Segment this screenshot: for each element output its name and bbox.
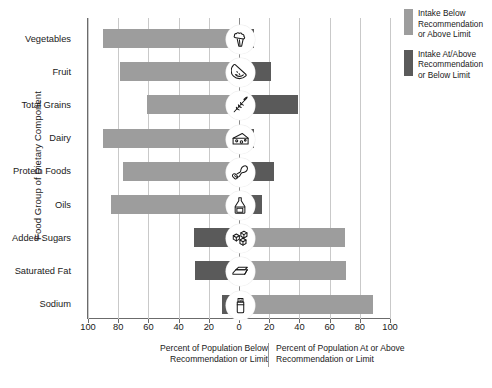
category-label: Sodium bbox=[0, 288, 74, 321]
bar-row bbox=[88, 221, 390, 254]
bar-rows bbox=[88, 22, 390, 321]
legend-item: Intake Below Recommendation or Above Lim… bbox=[404, 8, 492, 40]
bar-row bbox=[88, 254, 390, 287]
legend-swatch bbox=[404, 9, 413, 35]
category-label: Added Sugars bbox=[0, 221, 74, 254]
legend-item: Intake At/Above Recommendation or Below … bbox=[404, 49, 492, 81]
bar-segment-below-recommendation bbox=[111, 195, 239, 214]
x-axis-tick-label: 100 bbox=[382, 322, 398, 332]
legend: Intake Below Recommendation or Above Lim… bbox=[404, 8, 492, 89]
oil-bottle-icon bbox=[226, 191, 255, 220]
x-axis-tick-label: 20 bbox=[204, 322, 214, 332]
category-label: Fruit bbox=[0, 55, 74, 88]
legend-label: Intake Below Recommendation or Above Lim… bbox=[418, 8, 492, 40]
bar-row bbox=[88, 88, 390, 121]
dietary-intake-chart: Food Group of Dietary Component Vegetabl… bbox=[0, 0, 492, 388]
bar-row bbox=[88, 188, 390, 221]
x-axis-tick-label: 60 bbox=[324, 322, 334, 332]
bar-segment-below-recommendation bbox=[239, 261, 346, 280]
category-label: Dairy bbox=[0, 122, 74, 155]
legend-label: Intake At/Above Recommendation or Below … bbox=[418, 49, 492, 81]
legend-swatch bbox=[404, 50, 413, 76]
x-axis-tick-labels: 10080604020020406080100 bbox=[88, 322, 390, 336]
x-axis-tick-label: 60 bbox=[143, 322, 153, 332]
bar-segment-below-recommendation bbox=[123, 162, 239, 181]
bar-row bbox=[88, 122, 390, 155]
bar-row bbox=[88, 22, 390, 55]
plot-area bbox=[88, 18, 390, 319]
broccoli-icon bbox=[226, 25, 255, 54]
x-axis-tick-label: 40 bbox=[173, 322, 183, 332]
wheat-stalk-icon bbox=[226, 91, 255, 120]
x-axis-tick-label: 40 bbox=[294, 322, 304, 332]
cheese-icon bbox=[226, 125, 255, 154]
category-label: Oils bbox=[0, 188, 74, 221]
sugar-cubes-icon bbox=[226, 224, 255, 253]
category-label: Vegetables bbox=[0, 22, 74, 55]
bar-row bbox=[88, 55, 390, 88]
butter-icon bbox=[226, 257, 255, 286]
watermelon-slice-icon bbox=[226, 58, 255, 87]
category-label: Protein Foods bbox=[0, 155, 74, 188]
x-axis-tick-label: 80 bbox=[113, 322, 123, 332]
category-label: Saturated Fat bbox=[0, 254, 74, 287]
bar-row bbox=[88, 155, 390, 188]
bar-segment-below-recommendation bbox=[239, 295, 373, 314]
bar-segment-below-recommendation bbox=[103, 29, 239, 48]
x-axis-caption-left: Percent of Population Below Recommendati… bbox=[140, 343, 274, 365]
chicken-drumstick-icon bbox=[226, 158, 255, 187]
x-axis-caption-right: Percent of Population At or Above Recomm… bbox=[270, 343, 412, 365]
bar-row bbox=[88, 288, 390, 321]
gridline bbox=[390, 18, 391, 319]
category-label: Total Grains bbox=[0, 88, 74, 121]
x-axis-tick-label: 20 bbox=[264, 322, 274, 332]
salt-shaker-icon bbox=[226, 291, 255, 320]
bar-segment-below-recommendation bbox=[120, 62, 239, 81]
bar-segment-below-recommendation bbox=[239, 228, 345, 247]
x-axis-caption-divider bbox=[268, 343, 269, 367]
bar-segment-below-recommendation bbox=[103, 129, 239, 148]
x-axis-tick-label: 0 bbox=[236, 322, 241, 332]
x-axis-tick-label: 80 bbox=[355, 322, 365, 332]
category-label-list: VegetablesFruitTotal GrainsDairyProtein … bbox=[0, 22, 74, 321]
x-axis-tick-label: 100 bbox=[80, 322, 96, 332]
